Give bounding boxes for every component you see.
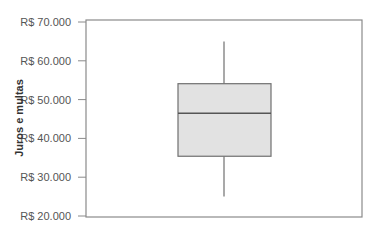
box-plot-chart: R$ 20.000R$ 30.000R$ 40.000R$ 50.000R$ 6…: [0, 0, 380, 235]
iqr-box: [178, 84, 271, 157]
y-tick-label: R$ 30.000: [20, 171, 71, 183]
y-tick-label: R$ 70.000: [20, 16, 71, 28]
y-tick-label: R$ 50.000: [20, 94, 71, 106]
y-axis: R$ 20.000R$ 30.000R$ 40.000R$ 50.000R$ 6…: [20, 16, 86, 222]
y-tick-label: R$ 40.000: [20, 132, 71, 144]
y-axis-label: Juros e multas: [13, 79, 25, 157]
y-tick-label: R$ 20.000: [20, 210, 71, 222]
y-tick-label: R$ 60.000: [20, 55, 71, 67]
